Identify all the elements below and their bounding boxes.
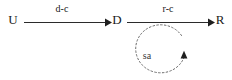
loop-sa-arrowhead-icon <box>181 51 188 59</box>
loop-sa-dashed-path <box>136 25 184 73</box>
node-u: U <box>8 12 18 27</box>
edge-d-to-r-arrowhead-icon <box>208 19 215 27</box>
loop-sa-feedback: sa <box>136 25 188 73</box>
edge-u-to-d-label: d-c <box>56 3 69 14</box>
diagram-canvas: d-c r-c sa U D R <box>0 0 232 80</box>
edge-d-to-r: r-c <box>127 3 215 26</box>
reaction-diagram: d-c r-c sa U D R <box>0 0 232 80</box>
loop-sa-label: sa <box>143 50 152 61</box>
edge-u-to-d: d-c <box>24 3 112 26</box>
edge-u-to-d-arrowhead-icon <box>105 19 112 27</box>
node-d: D <box>112 12 121 27</box>
node-r: R <box>216 12 225 27</box>
edge-d-to-r-label: r-c <box>163 3 174 14</box>
